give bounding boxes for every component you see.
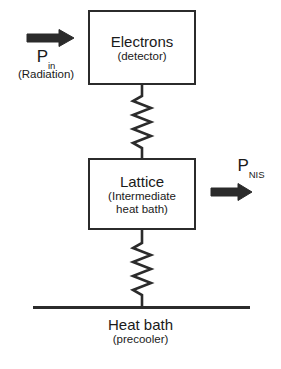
block-lattice: Lattice (Intermediate heat bath) — [88, 158, 196, 230]
heat-bath-baseline — [33, 306, 250, 309]
spring-icon-lattice-heatbath — [124, 229, 160, 308]
heat-bath-title: Heat bath — [0, 316, 281, 333]
power-in-subscript: in — [48, 60, 55, 71]
power-in-symbol: P — [37, 47, 48, 66]
power-out-subscript: NIS — [249, 169, 265, 180]
block-lattice-subtitle-line2: heat bath) — [116, 203, 168, 216]
arrow-right-icon-power-in — [26, 29, 76, 47]
power-out-label: PNIS — [222, 157, 280, 177]
heat-bath-subtitle: (precooler) — [0, 333, 281, 346]
power-in-note: (Radiation) — [4, 68, 88, 80]
block-electrons-subtitle: (detector) — [117, 50, 166, 63]
block-electrons-title: Electrons — [111, 33, 174, 50]
block-lattice-subtitle-line1: (Intermediate — [108, 190, 176, 203]
spring-icon-electrons-lattice — [124, 84, 160, 160]
power-in-label: Pin (Radiation) — [4, 48, 88, 80]
arrow-right-icon-power-out — [210, 183, 254, 201]
power-out-symbol: P — [237, 156, 248, 175]
block-lattice-title: Lattice — [120, 173, 164, 190]
block-electrons: Electrons (detector) — [88, 10, 196, 85]
thermal-model-diagram: Pin (Radiation) Electrons (detector) Lat… — [0, 0, 281, 369]
heat-bath-label: Heat bath (precooler) — [0, 316, 281, 346]
